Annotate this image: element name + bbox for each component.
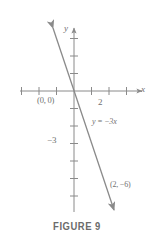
x-axis — [20, 87, 142, 95]
x-tick-label-2: 2 — [98, 98, 102, 107]
y-axis-label: y — [64, 24, 68, 33]
point-label-2-negative-6: (2, −6) — [110, 181, 130, 189]
y-axis — [70, 28, 78, 212]
origin-point-label: (0, 0) — [37, 96, 54, 105]
x-axis-label: x — [141, 85, 145, 94]
equation-label: y = −3x — [92, 118, 117, 126]
figure-container: y x (0, 0) 2 −3 y = −3x (2, −6) FIGURE 9 — [0, 0, 154, 241]
coordinate-plane-graphic — [0, 0, 154, 241]
figure-caption: FIGURE 9 — [11, 220, 143, 232]
y-tick-label-negative-3: −3 — [47, 136, 56, 145]
